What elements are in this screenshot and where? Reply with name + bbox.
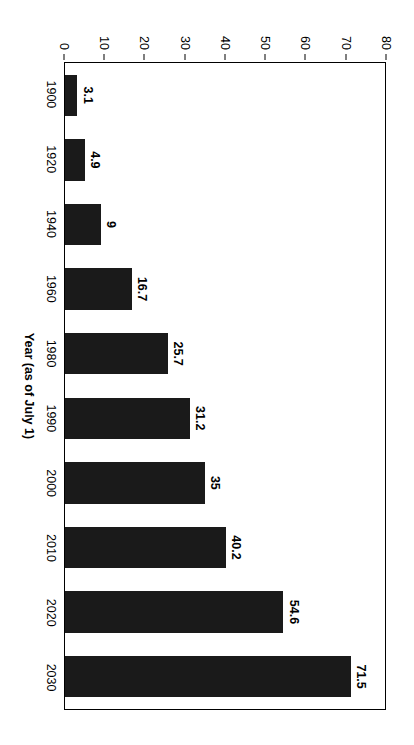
bar-value-label: 35 xyxy=(209,476,222,490)
bar-slot: 71.5 xyxy=(65,644,385,709)
bar-slot: 25.7 xyxy=(65,321,385,386)
category-axis-tick-label: 1940 xyxy=(38,192,62,257)
bar-slot: 40.2 xyxy=(65,515,385,580)
plot-area: 3.14.9916.725.731.23540.254.671.5 xyxy=(64,62,386,710)
category-axis-tick-label: 1920 xyxy=(38,127,62,192)
category-axis-tick-label: 2000 xyxy=(38,451,62,516)
bar-value-label: 40.2 xyxy=(230,535,243,559)
value-axis-tick-mark xyxy=(225,54,226,60)
bar-slot: 16.7 xyxy=(65,257,385,322)
bar-slot: 9 xyxy=(65,192,385,257)
value-axis-tick-label: 50 xyxy=(259,36,272,50)
bar-value-label: 71.5 xyxy=(355,664,368,688)
bar[interactable]: 54.6 xyxy=(65,591,283,632)
bars-layer: 3.14.9916.725.731.23540.254.671.5 xyxy=(65,63,385,709)
bar-slot: 31.2 xyxy=(65,386,385,451)
value-axis-tick-label: 40 xyxy=(219,36,232,50)
value-axis-tick-mark xyxy=(184,54,185,60)
category-axis-tick-label: 2030 xyxy=(38,645,62,710)
value-axis-tick-label: 20 xyxy=(138,36,151,50)
bar-value-label: 3.1 xyxy=(81,87,94,104)
bar-value-label: 31.2 xyxy=(194,406,207,430)
value-axis-tick-mark xyxy=(345,54,346,60)
bar-value-label: 16.7 xyxy=(136,277,149,301)
bar[interactable]: 3.1 xyxy=(65,75,77,116)
bar[interactable]: 9 xyxy=(65,204,101,245)
bar[interactable]: 40.2 xyxy=(65,527,226,568)
bar-value-label: 9 xyxy=(105,221,118,228)
bar-slot: 3.1 xyxy=(65,63,385,128)
value-axis-tick-label: 70 xyxy=(340,36,353,50)
bar-slot: 54.6 xyxy=(65,580,385,645)
category-axis-title: Year (as of July 1) xyxy=(22,62,36,710)
bar[interactable]: 25.7 xyxy=(65,333,168,374)
value-axis-tick-mark xyxy=(265,54,266,60)
bar-chart-figure: 01020304050607080 3.14.9916.725.731.2354… xyxy=(0,0,414,745)
value-axis-tick-mark xyxy=(305,54,306,60)
value-axis-tick-label: 30 xyxy=(179,36,192,50)
value-axis-tick-mark xyxy=(104,54,105,60)
bar[interactable]: 16.7 xyxy=(65,268,132,309)
category-axis: 1900192019401960198019902000201020202030 xyxy=(38,62,62,710)
bar[interactable]: 31.2 xyxy=(65,398,190,439)
value-axis-tick-label: 80 xyxy=(380,36,393,50)
bar-value-label: 4.9 xyxy=(89,151,102,168)
category-axis-tick-label: 1960 xyxy=(38,256,62,321)
rotated-figure-frame: 01020304050607080 3.14.9916.725.731.2354… xyxy=(0,0,414,745)
bar-slot: 4.9 xyxy=(65,128,385,193)
bar[interactable]: 35 xyxy=(65,462,205,503)
value-axis-tick-label: 60 xyxy=(299,36,312,50)
bar[interactable]: 4.9 xyxy=(65,139,85,180)
category-axis-tick-label: 2020 xyxy=(38,580,62,645)
bar-value-label: 54.6 xyxy=(287,600,300,624)
value-axis: 01020304050607080 xyxy=(64,0,386,60)
category-axis-tick-label: 1900 xyxy=(38,62,62,127)
category-axis-tick-label: 1990 xyxy=(38,386,62,451)
value-axis-tick-label: 0 xyxy=(58,43,71,50)
bar-value-label: 25.7 xyxy=(172,341,185,365)
value-axis-tick-mark xyxy=(386,54,387,60)
value-axis-tick-label: 10 xyxy=(98,36,111,50)
value-axis-tick-mark xyxy=(64,54,65,60)
category-axis-tick-label: 1980 xyxy=(38,321,62,386)
bar[interactable]: 71.5 xyxy=(65,656,351,697)
bar-slot: 35 xyxy=(65,451,385,516)
category-axis-tick-label: 2010 xyxy=(38,516,62,581)
value-axis-tick-mark xyxy=(144,54,145,60)
